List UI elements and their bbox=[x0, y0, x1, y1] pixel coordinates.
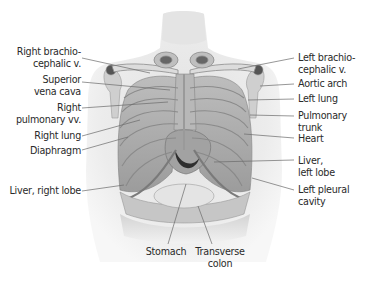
right-lung-shape bbox=[118, 76, 178, 192]
label-liver-right-lobe: Liver, right lobe bbox=[9, 185, 81, 197]
label-left-lung: Left lung bbox=[298, 93, 338, 105]
label-aortic-arch: Aortic arch bbox=[298, 78, 347, 90]
label-superior-vena-cava: Superior vena cava bbox=[34, 74, 81, 98]
label-right-pulmonary-vv: Right pulmonary vv. bbox=[16, 102, 81, 126]
label-stomach: Stomach bbox=[136, 246, 196, 258]
label-heart: Heart bbox=[298, 133, 323, 145]
label-right-brachiocephalic-v: Right brachio- cephalic v. bbox=[17, 46, 81, 70]
label-pulmonary-trunk: Pulmonary trunk bbox=[298, 110, 347, 134]
label-transverse-colon: Transverse colon bbox=[190, 246, 250, 270]
label-left-brachiocephalic-v: Left brachio- cephalic v. bbox=[298, 52, 355, 76]
label-diaphragm: Diaphragm bbox=[30, 145, 81, 157]
label-right-lung: Right lung bbox=[34, 130, 81, 142]
label-left-pleural-cavity: Left pleural cavity bbox=[298, 184, 349, 208]
thorax-diagram: Right brachio- cephalic v. Superior vena… bbox=[0, 0, 368, 282]
label-liver-left-lobe: Liver, left lobe bbox=[298, 155, 335, 179]
